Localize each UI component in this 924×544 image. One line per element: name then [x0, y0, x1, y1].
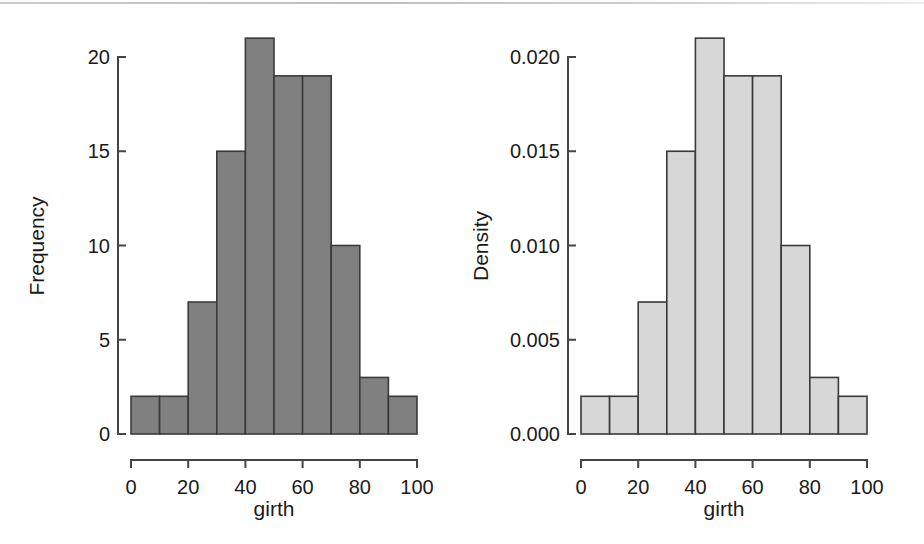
x-axis-tick-label: 60	[291, 476, 313, 498]
y-axis-title: Frequency	[25, 196, 48, 296]
y-axis-tick-labels-group: 0.0000.0050.0100.0150.020	[510, 46, 560, 445]
histogram-bar	[838, 396, 867, 434]
x-axis-ticks-group	[581, 460, 867, 468]
histogram-bar	[360, 377, 389, 434]
x-axis-line	[581, 460, 867, 468]
x-axis-tick-label: 100	[400, 476, 433, 498]
y-axis-tick-label: 0.000	[510, 423, 560, 445]
x-axis-tick-label: 20	[177, 476, 199, 498]
y-axis-tick-label: 0.005	[510, 329, 560, 351]
x-axis-title: girth	[704, 497, 745, 520]
y-axis-tick-label: 0.020	[510, 46, 560, 68]
y-axis-ticks-group	[568, 57, 576, 434]
histogram-bar	[303, 76, 332, 434]
histogram-bar	[638, 302, 667, 434]
histogram-bar	[581, 396, 610, 434]
y-axis-ticks-group	[118, 57, 126, 434]
x-axis-tick-label: 60	[741, 476, 763, 498]
frequency-histogram-panel: 05101520 020406080100 girth Frequency	[0, 0, 462, 544]
y-axis-tick-label: 20	[88, 46, 110, 68]
histogram-bar	[724, 76, 753, 434]
y-axis-tick-label: 15	[88, 140, 110, 162]
histogram-bar	[131, 396, 160, 434]
histogram-bar	[810, 377, 839, 434]
histogram-bar	[188, 302, 217, 434]
histogram-bar	[160, 396, 189, 434]
density-histogram-panel: 0.0000.0050.0100.0150.020 020406080100 g…	[462, 0, 924, 544]
y-axis-tick-label: 0.015	[510, 140, 560, 162]
x-axis-line	[131, 460, 417, 468]
histogram-bar	[610, 396, 639, 434]
frequency-bars-group	[131, 38, 417, 434]
histogram-bar	[245, 38, 274, 434]
x-axis-ticks-group	[131, 460, 417, 468]
x-axis-tick-label: 100	[850, 476, 883, 498]
y-axis-tick-labels-group: 05101520	[88, 46, 110, 445]
x-axis-tick-label: 80	[349, 476, 371, 498]
histogram-bar	[781, 246, 810, 435]
y-axis-tick-label: 5	[99, 329, 110, 351]
x-axis-tick-label: 20	[627, 476, 649, 498]
y-axis-tick-label: 0.010	[510, 235, 560, 257]
histogram-bar	[695, 38, 724, 434]
y-axis-tick-label: 0	[99, 423, 110, 445]
histogram-bar	[217, 151, 246, 434]
histogram-bar	[331, 246, 360, 435]
y-axis-title: Density	[469, 210, 492, 281]
density-bars-group	[581, 38, 867, 434]
x-axis-tick-label: 80	[799, 476, 821, 498]
histogram-bar	[667, 151, 696, 434]
histogram-figure: 05101520 020406080100 girth Frequency 0.…	[0, 0, 924, 544]
histogram-bar	[753, 76, 782, 434]
x-axis-tick-label: 0	[575, 476, 586, 498]
y-axis-tick-label: 10	[88, 235, 110, 257]
histogram-bar	[274, 76, 303, 434]
x-axis-tick-labels-group: 020406080100	[575, 476, 883, 498]
x-axis-tick-label: 40	[234, 476, 256, 498]
x-axis-tick-label: 40	[684, 476, 706, 498]
histogram-bar	[388, 396, 417, 434]
x-axis-tick-label: 0	[125, 476, 136, 498]
x-axis-title: girth	[254, 497, 295, 520]
x-axis-tick-labels-group: 020406080100	[125, 476, 433, 498]
